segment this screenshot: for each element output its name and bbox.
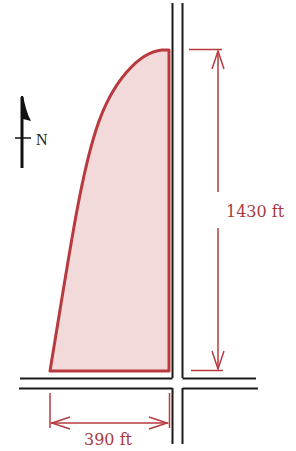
- site-plan-diagram: 1430 ft 390 ft N: [0, 0, 296, 451]
- lot-parcel: [50, 50, 169, 371]
- north-label: N: [36, 131, 48, 148]
- height-label: 1430 ft: [226, 202, 285, 221]
- height-dimension: [189, 50, 224, 371]
- north-arrow-icon: [15, 96, 31, 168]
- north-south-road: [173, 3, 183, 444]
- width-label: 390 ft: [84, 430, 133, 449]
- width-dimension: [50, 393, 170, 429]
- east-west-road: [19, 379, 258, 389]
